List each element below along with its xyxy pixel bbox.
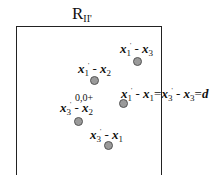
point-x1p-x2 (90, 76, 99, 85)
region-title: RII' (72, 4, 92, 24)
label-equation: x1' - x1=x3' - x3=d (121, 86, 208, 103)
point-x3p-x2 (74, 117, 83, 126)
label-x3p-x2: x3' - x2 (60, 100, 93, 117)
point-x1p-x3 (133, 57, 142, 66)
point-equation (119, 99, 128, 108)
point-x3p-x1 (104, 141, 113, 150)
label-x1p-x3: x1' - x3 (120, 41, 153, 58)
